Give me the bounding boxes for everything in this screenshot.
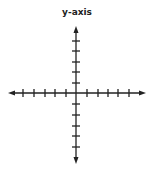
left-arrow-icon [8,91,15,96]
down-arrow-icon [74,157,79,164]
up-arrow-icon [74,26,79,33]
right-arrow-icon [139,91,146,96]
coordinate-plane [0,0,150,175]
